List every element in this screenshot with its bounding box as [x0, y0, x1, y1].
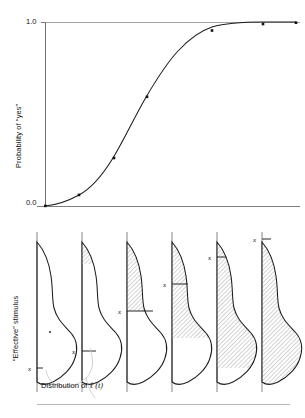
- distribution-panel-6: x: [252, 232, 302, 392]
- data-point: [113, 157, 116, 160]
- criterion-label: x: [27, 365, 32, 373]
- data-point: [78, 194, 81, 197]
- distribution-panel-5: x: [207, 232, 257, 392]
- data-point: [44, 205, 47, 208]
- data-point: [262, 23, 265, 26]
- shaded-region: [82, 242, 122, 384]
- distribution-caption: Distribution of ℓ (t): [41, 381, 103, 390]
- density-curve: [37, 242, 77, 384]
- criterion-label: x: [207, 254, 212, 262]
- shaded-region: [37, 242, 77, 384]
- distribution-panel-4: x: [162, 232, 212, 392]
- data-point-markers: [44, 21, 297, 207]
- shaded-region: [127, 242, 167, 384]
- shaded-region: [262, 242, 302, 384]
- distribution-panel-1: x: [27, 232, 77, 392]
- psychometric-curve: [45, 22, 296, 206]
- criterion-label: x: [117, 308, 122, 316]
- data-point: [146, 96, 149, 99]
- bottom-divider: [37, 404, 290, 405]
- distribution-caption-text: Distribution of: [41, 381, 90, 390]
- shaded-region: [217, 242, 257, 384]
- bottom-distributions-panel: “Effective” stimulus x: [0, 218, 305, 418]
- top-chart-plot: [0, 0, 305, 218]
- criterion-label: x: [162, 281, 167, 289]
- distribution-panel-3: x: [117, 232, 167, 392]
- data-point: [295, 21, 298, 24]
- criterion-dot: [49, 331, 51, 333]
- criterion-label: x: [71, 348, 76, 356]
- top-chart-panel: Probability of “yes” 1.0 0.0: [0, 0, 305, 218]
- distribution-caption-symbol: ℓ (t): [90, 381, 104, 390]
- data-point: [211, 29, 214, 32]
- figure-container: Probability of “yes” 1.0 0.0: [0, 0, 305, 418]
- shaded-region: [172, 242, 212, 384]
- criterion-label: x: [252, 236, 257, 244]
- distribution-panel-2: x: [71, 232, 122, 392]
